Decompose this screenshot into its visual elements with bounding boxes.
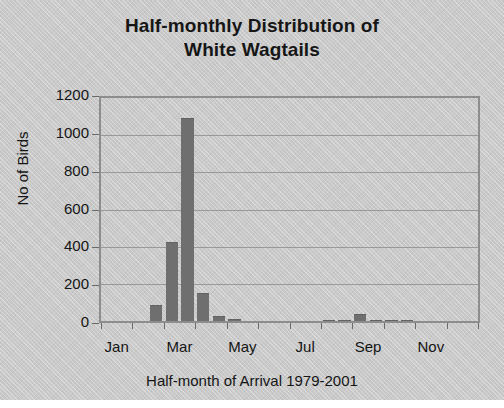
y-tick-mark [92,285,99,286]
x-tick-mark [195,323,196,329]
x-tick-label: Nov [401,338,461,355]
bar-series [101,98,478,321]
y-tick-mark [92,134,99,135]
bar [385,320,397,322]
bar [166,242,178,321]
y-tick-mark [92,247,99,248]
x-tick-mark [132,323,133,329]
x-tick-mark [478,323,479,329]
figure-bottom-margin [0,400,504,408]
y-tick-label: 600 [29,200,89,217]
x-tick-label: May [212,338,272,355]
chart-title-line-2: White Wagtails [0,38,504,62]
bar [181,118,193,321]
bar [213,316,225,321]
x-tick-mark [321,323,322,329]
x-axis-label: Half-month of Arrival 1979-2001 [0,372,504,389]
bar [197,293,209,321]
y-tick-mark [92,172,99,173]
bar [228,319,240,321]
x-tick-mark [258,323,259,329]
y-tick-label: 400 [29,237,89,254]
x-tick-mark [384,323,385,329]
y-axis-label: No of Birds [14,99,31,239]
bar [354,314,366,321]
chart-title-line-1: Half-monthly Distribution of [0,14,504,38]
y-tick-label: 200 [29,275,89,292]
x-tick-mark [447,323,448,329]
x-tick-label: Jan [87,338,147,355]
chart-title: Half-monthly Distribution of White Wagta… [0,14,504,62]
bar [323,320,335,322]
bar [370,320,382,322]
x-tick-mark [290,323,291,329]
y-tick-mark [92,210,99,211]
plot-area [99,96,480,323]
bar [150,305,162,321]
y-tick-mark [92,96,99,97]
x-tick-mark [352,323,353,329]
x-tick-label: Mar [150,338,210,355]
x-tick-mark [164,323,165,329]
y-tick-mark [92,323,99,324]
y-tick-label: 800 [29,162,89,179]
x-tick-label: Sep [338,338,398,355]
y-tick-label: 1000 [29,124,89,141]
x-tick-label: Jul [275,338,335,355]
x-tick-mark [227,323,228,329]
chart-figure: Half-monthly Distribution of White Wagta… [0,0,504,400]
bar [401,320,413,322]
bar [338,320,350,322]
x-tick-mark [101,323,102,329]
x-tick-mark [415,323,416,329]
y-tick-label: 1200 [29,86,89,103]
y-tick-label: 0 [29,313,89,330]
